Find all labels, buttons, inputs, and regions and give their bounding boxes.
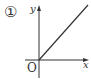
figure-number: ①	[4, 5, 17, 20]
graph-line	[39, 5, 88, 60]
graph-figure: ① y x O	[0, 0, 91, 79]
origin-label: O	[27, 62, 37, 74]
y-axis-arrow-icon	[37, 5, 41, 11]
y-axis-label: y	[30, 4, 36, 14]
x-axis-label: x	[83, 60, 89, 70]
